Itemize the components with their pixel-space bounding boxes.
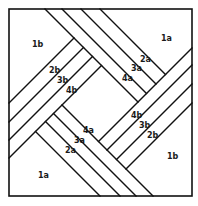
piece-label-4a-bottom: 4a [83,126,94,135]
piece-label-2b-left: 2b [49,66,61,75]
diagram-canvas: 1b2b3b4b1a2a3a4a4a3a2a1a4b3b2b1b [0,0,198,206]
piece-label-4b-left: 4b [66,86,78,95]
piece-label-1a-top-right: 1a [161,34,172,43]
piece-label-3b-left: 3b [57,76,69,85]
piece-label-1b-top-left: 1b [32,40,44,49]
piece-label-3a-bottom: 3a [74,136,85,145]
piece-label-3a-top: 3a [131,64,142,73]
piece-label-3b-right: 3b [139,121,151,130]
piece-label-1b-bottom-right: 1b [167,152,179,161]
piece-label-2a-bottom: 2a [65,146,76,155]
piece-label-4b-right: 4b [131,111,143,120]
piece-label-4a-top: 4a [122,74,133,83]
quilt-block-diagram: 1b2b3b4b1a2a3a4a4a3a2a1a4b3b2b1b [0,0,198,206]
piece-label-2a-top: 2a [140,55,151,64]
piece-label-2b-right: 2b [147,131,159,140]
piece-label-1a-bottom-left: 1a [38,171,49,180]
